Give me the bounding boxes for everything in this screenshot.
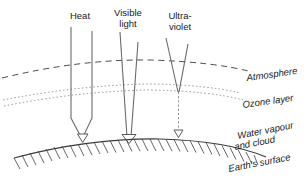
beam-label-visible-light-line1: Visible	[114, 7, 142, 18]
beam-label-ultraviolet-line2: violet	[169, 21, 192, 32]
heat-arrowhead-icon	[78, 134, 89, 143]
ozone-layer-line-upper	[3, 84, 240, 100]
earth-surface-line	[14, 139, 266, 158]
beam-label-heat: Heat	[70, 10, 90, 21]
visible-light-ray-right	[131, 42, 138, 137]
heat-ray-left	[71, 27, 81, 137]
ultraviolet-arrowhead-icon	[174, 130, 183, 138]
diagram-canvas: Heat Visible light Ultra- violet Atmosph…	[0, 0, 307, 194]
ultraviolet-ray-right	[179, 44, 188, 92]
earth-surface-hatching	[14, 139, 258, 169]
layer-label-ozone: Ozone layer	[242, 92, 295, 110]
beam-label-visible-light-line2: light	[119, 18, 137, 29]
beam-label-ultraviolet-line1: Ultra-	[168, 10, 191, 21]
atmosphere-boundary-line	[2, 60, 252, 78]
radiation-atmosphere-diagram: Heat Visible light Ultra- violet Atmosph…	[0, 0, 307, 194]
heat-ray-right	[83, 31, 92, 137]
ultraviolet-ray-left	[166, 38, 178, 92]
layer-label-atmosphere: Atmosphere	[245, 65, 298, 83]
